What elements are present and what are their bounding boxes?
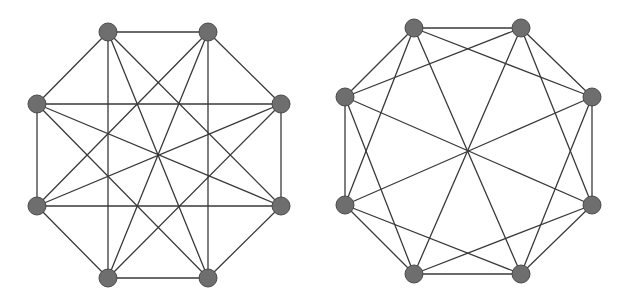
- right-graph-node-H: [336, 88, 354, 106]
- left-graph-edge-B-C: [208, 32, 281, 104]
- left-graph-edge-A-D: [108, 32, 281, 206]
- left-graph-edge-H-A: [37, 32, 108, 104]
- left-graph-node-A: [99, 23, 117, 41]
- right-graph-node-E: [512, 265, 530, 283]
- left-graph-edge-B-G: [37, 32, 208, 206]
- left-graph-edges: [37, 32, 281, 278]
- right-graph-node-C: [583, 88, 601, 106]
- right-graph-edge-E-G: [345, 205, 521, 274]
- left-graph: [28, 23, 290, 287]
- left-graph-edge-H-E: [37, 104, 208, 278]
- right-graph-edge-F-G: [345, 205, 414, 274]
- right-graph-node-G: [336, 196, 354, 214]
- right-graph-node-D: [583, 196, 601, 214]
- left-graph-node-G: [28, 197, 46, 215]
- left-graph-node-D: [272, 197, 290, 215]
- left-graph-node-C: [272, 95, 290, 113]
- right-graph-edge-D-E: [521, 205, 592, 274]
- right-graph-edge-B-C: [521, 28, 592, 97]
- right-graph-node-F: [405, 265, 423, 283]
- left-graph-edge-C-F: [108, 104, 281, 278]
- right-graph-edges: [345, 28, 592, 274]
- right-graph-edge-G-A: [345, 28, 414, 205]
- right-graph-edge-H-A: [345, 28, 414, 97]
- right-graph-node-A: [405, 19, 423, 37]
- left-graph-node-E: [199, 269, 217, 287]
- left-graph-node-H: [28, 95, 46, 113]
- right-graph-edge-H-B: [345, 28, 521, 97]
- right-graph-edge-A-C: [414, 28, 592, 97]
- left-graph-node-B: [199, 23, 217, 41]
- left-graph-edge-F-G: [37, 206, 108, 278]
- left-graph-node-F: [99, 269, 117, 287]
- right-graph-edge-D-F: [414, 205, 592, 274]
- right-graph-edge-F-H: [345, 97, 414, 274]
- right-graph-node-B: [512, 19, 530, 37]
- right-graph: [336, 19, 601, 283]
- graph-diagram: [0, 0, 629, 305]
- left-graph-edge-D-E: [208, 206, 281, 278]
